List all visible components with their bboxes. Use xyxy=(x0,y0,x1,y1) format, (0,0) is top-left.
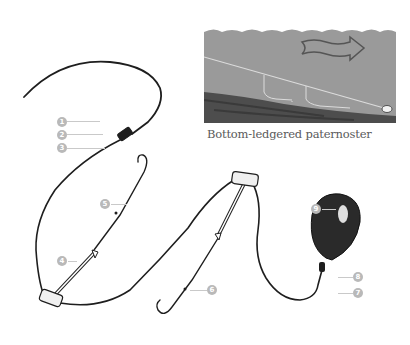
label-badge-4: 4 xyxy=(57,256,67,266)
hook-snood-lower xyxy=(157,235,220,313)
leader-3 xyxy=(67,148,105,149)
label-badge-3: 3 xyxy=(57,143,67,153)
leader-7 xyxy=(338,293,353,294)
leader-1 xyxy=(67,121,100,122)
leader-6 xyxy=(190,290,207,291)
link-swivel xyxy=(319,262,325,272)
leader-8 xyxy=(338,277,353,278)
label-badge-7: 7 xyxy=(353,288,363,298)
leader-9 xyxy=(322,209,336,210)
main-line-lower xyxy=(252,182,322,300)
label-badge-5: 5 xyxy=(100,199,110,209)
leader-5 xyxy=(111,204,127,205)
leader-2 xyxy=(67,134,103,135)
label-badge-8: 8 xyxy=(353,272,363,282)
label-badge-2: 2 xyxy=(57,130,67,140)
label-badge-1: 1 xyxy=(57,117,67,127)
label-badge-9: 9 xyxy=(311,204,321,214)
paternoster-diagram: Bottom-ledgered paternoster xyxy=(0,0,410,345)
boom-left xyxy=(39,250,98,307)
swivel xyxy=(117,127,133,142)
label-badge-6: 6 xyxy=(207,285,217,295)
boom-middle xyxy=(215,171,259,240)
leader-4 xyxy=(68,261,77,262)
main-line-upper xyxy=(24,62,161,134)
